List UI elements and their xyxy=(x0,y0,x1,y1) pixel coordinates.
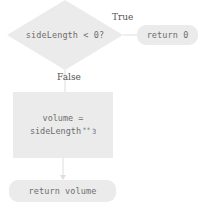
process-node: volume = sideLength ** 3 xyxy=(13,92,113,158)
flowchart-canvas: sideLength < 0? True return 0 False volu… xyxy=(0,0,203,212)
return-volume-node: return volume xyxy=(9,180,116,202)
process-operator: ** xyxy=(83,124,91,137)
decision-node: sideLength < 0? xyxy=(7,0,123,70)
process-line-2: sideLength ** 3 xyxy=(30,125,96,139)
process-exponent: 3 xyxy=(92,126,96,139)
decision-node-label: sideLength < 0? xyxy=(7,0,123,70)
return-volume-label: return volume xyxy=(29,186,97,196)
process-line-1: volume = xyxy=(43,112,84,125)
return-zero-label: return 0 xyxy=(147,30,189,40)
edge-label-false: False xyxy=(57,72,81,82)
edge-label-true: True xyxy=(112,12,133,22)
process-operand: sideLength xyxy=(30,125,81,138)
return-zero-node: return 0 xyxy=(137,25,198,45)
